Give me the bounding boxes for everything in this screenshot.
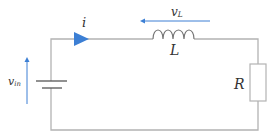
left-top-wire: [51, 39, 153, 81]
inductor-voltage-arrow-icon: [140, 19, 210, 24]
inductor-label: L: [170, 43, 179, 57]
source-voltage-label: vin: [8, 76, 21, 88]
inductor-voltage-symbol: v: [171, 5, 178, 19]
resistor-symbol: R: [234, 76, 245, 92]
current-direction-arrow-icon: [74, 32, 89, 46]
source-voltage-arrow-icon: [25, 57, 30, 104]
source-voltage-subscript: in: [14, 80, 21, 88]
bottom-wire: [51, 88, 258, 130]
top-right-wire: [194, 39, 258, 64]
inductor-symbol: L: [170, 42, 179, 58]
resistor-label: R: [234, 77, 245, 91]
inductor-voltage-subscript: L: [178, 10, 183, 19]
current-label: i: [82, 16, 86, 29]
circuit-wires: [51, 39, 258, 130]
circuit-diagram: [0, 0, 278, 140]
resistor-icon: [250, 64, 266, 101]
inductor-voltage-label: vL: [171, 6, 183, 19]
current-symbol: i: [82, 15, 86, 30]
battery-icon: [36, 81, 67, 88]
inductor-icon: [153, 30, 194, 39]
